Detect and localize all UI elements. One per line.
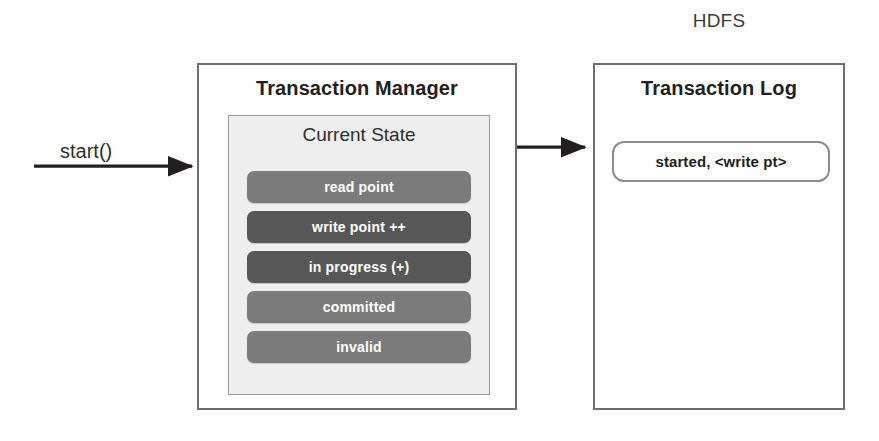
transaction-log-box: Transaction Log started, <write pt>	[593, 63, 845, 410]
current-state-panel: Current State read point write point ++ …	[228, 115, 490, 395]
transaction-log-title: Transaction Log	[595, 77, 843, 100]
transaction-manager-box: Transaction Manager Current State read p…	[197, 63, 517, 410]
hdfs-label: HDFS	[593, 10, 845, 32]
state-pill-invalid: invalid	[247, 331, 471, 363]
current-state-title: Current State	[229, 124, 489, 146]
transaction-manager-title: Transaction Manager	[199, 77, 515, 100]
transaction-log-entry: started, <write pt>	[612, 141, 830, 182]
state-pill-write-point: write point ++	[247, 211, 471, 243]
state-pill-in-progress: in progress (+)	[247, 251, 471, 283]
state-pill-read-point: read point	[247, 171, 471, 203]
state-list: read point write point ++ in progress (+…	[247, 171, 471, 371]
start-arrow	[34, 163, 202, 177]
link-arrow	[517, 144, 603, 158]
state-pill-committed: committed	[247, 291, 471, 323]
diagram-canvas: HDFS start() Transaction Manager Current…	[0, 0, 879, 441]
start-arrow-label: start()	[60, 140, 112, 163]
